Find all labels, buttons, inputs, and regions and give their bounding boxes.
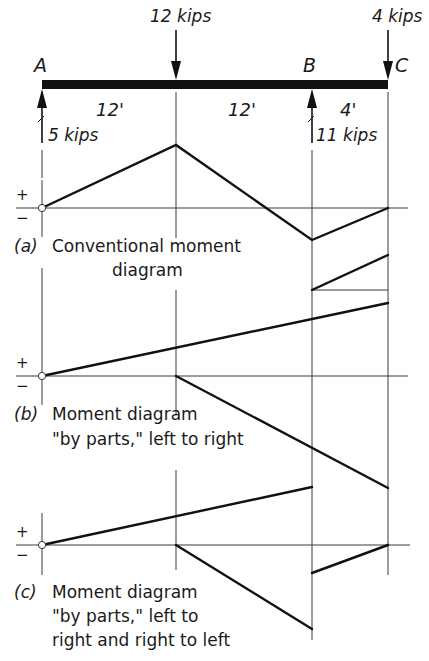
reaction-a-tick [38, 116, 44, 122]
moment-diagram-figure: A B C 12 kips 4 kips 5 kips 11 kips 12' … [0, 0, 429, 661]
load-4-label: 4 kips [372, 6, 423, 26]
load-4-arrow-icon [383, 61, 393, 80]
span-ab-right: 12' [228, 99, 256, 120]
caption-c-line2: "by parts," left to [52, 606, 198, 626]
minus-sign-b: − [16, 377, 29, 395]
diagram-c: + − (c) Moment diagram "by parts," left … [14, 487, 410, 650]
caption-c-line1: Moment diagram [52, 582, 198, 602]
moment-part-reaction-a-c [42, 487, 312, 545]
moment-curve-a [42, 145, 388, 240]
origin-marker-b [38, 372, 45, 379]
diagram-a: + − (a) Conventional moment diagram [14, 145, 408, 290]
moment-part-load-4-c [312, 545, 388, 573]
point-label-a: A [32, 54, 47, 76]
reaction-b-label: 11 kips [316, 125, 377, 145]
caption-a-line1: Conventional moment [52, 236, 241, 256]
reaction-a-label: 5 kips [48, 125, 99, 145]
caption-tag-a: (a) [14, 236, 38, 256]
caption-b-line1: Moment diagram [52, 404, 198, 424]
plus-sign-c: + [16, 523, 29, 541]
origin-marker-a [38, 204, 45, 211]
diagram-b: + − (b) Moment diagram "by parts," left … [14, 303, 408, 488]
caption-a-line2: diagram [112, 260, 183, 280]
beam: A B C 12 kips 4 kips 5 kips 11 kips 12' … [32, 6, 423, 145]
origin-marker-c [38, 541, 45, 548]
reaction-b-tick [308, 116, 314, 122]
reaction-b-arrow-icon [307, 89, 317, 108]
reaction-a-arrow-icon [37, 89, 47, 108]
caption-b-line2: "by parts," left to right [52, 429, 244, 449]
span-ab-left: 12' [96, 99, 124, 120]
caption-tag-b: (b) [14, 404, 38, 424]
plus-sign-a: + [16, 186, 29, 204]
load-12-arrow-icon [171, 61, 181, 80]
point-label-c: C [395, 54, 409, 76]
minus-sign-c: − [16, 546, 29, 564]
minus-sign-a: − [16, 209, 29, 227]
load-12-label: 12 kips [150, 6, 211, 26]
span-bc: 4' [340, 99, 356, 120]
caption-tag-c: (c) [14, 582, 37, 602]
moment-part-reaction-a-b [42, 303, 388, 376]
caption-c-line3: right and right to left [52, 630, 230, 650]
cantilever-part-a [312, 255, 388, 290]
plus-sign-b: + [16, 354, 29, 372]
beam-bar [42, 80, 388, 89]
point-label-b: B [303, 54, 316, 76]
